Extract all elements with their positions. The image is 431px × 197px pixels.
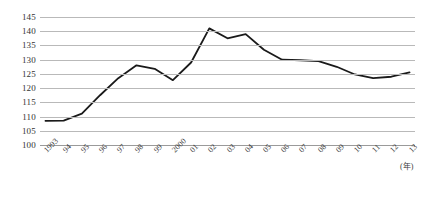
gridline (40, 60, 415, 61)
y-tick-label: 130 (2, 56, 36, 65)
x-axis: 1993949596979899200001020304050607080910… (40, 148, 415, 188)
y-tick-label: 145 (2, 13, 36, 22)
gridline (40, 88, 415, 89)
y-tick-label: 115 (2, 98, 36, 107)
y-tick-label: 135 (2, 41, 36, 50)
gridline (40, 102, 415, 103)
y-axis: 145140135130125120115110105100 (0, 17, 36, 145)
gridline (40, 117, 415, 118)
y-tick-label: 105 (2, 127, 36, 136)
y-tick-label: 140 (2, 27, 36, 36)
gridline (40, 17, 415, 18)
gridline (40, 45, 415, 46)
y-tick-label: 100 (2, 141, 36, 150)
x-axis-unit-label: (年) (400, 160, 413, 171)
gridline (40, 131, 415, 132)
gridline (40, 74, 415, 75)
plot-area (40, 17, 415, 145)
chart-container: 145140135130125120115110105100 199394959… (0, 0, 431, 197)
line-series (40, 17, 415, 145)
gridline (40, 31, 415, 32)
y-tick-label: 125 (2, 70, 36, 79)
y-tick-label: 110 (2, 113, 36, 122)
y-tick-label: 120 (2, 84, 36, 93)
